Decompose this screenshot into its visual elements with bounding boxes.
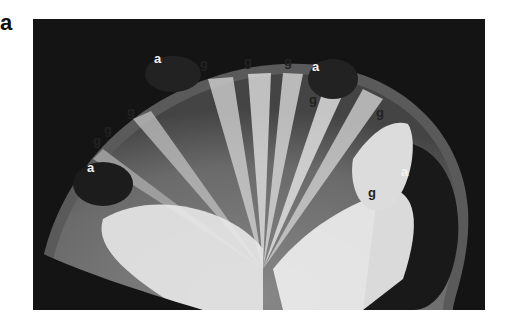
label-a: a [87,161,94,174]
label-g: g [127,105,135,118]
label-a: a [401,165,408,178]
label-g: g [244,55,252,68]
label-g: g [104,123,112,136]
label-g: g [284,55,292,68]
label-g: g [309,93,317,106]
panel-label: a [0,10,12,36]
label-g: g [350,72,358,85]
label-g: g [376,106,384,119]
label-g: g [200,57,208,70]
label-a: a [312,60,319,73]
label-g: g [93,134,101,147]
label-g: g [368,186,376,199]
micrograph-image [33,19,485,310]
micrograph-drawing [33,19,485,310]
dark-region [73,162,133,206]
label-a: a [154,52,161,65]
